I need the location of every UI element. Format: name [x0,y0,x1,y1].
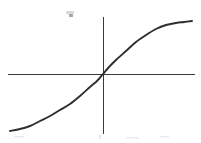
plot-background [0,0,201,143]
pencil-smudge-icon [66,11,74,14]
pencil-smudge-core [69,14,73,17]
scan-speck-center-icon [99,135,101,139]
scan-speck-far-right-icon [160,136,169,137]
scan-speck-right-icon [126,137,139,139]
scan-speck-left-icon [14,136,24,138]
figure-canvas: Hand drawn S shaped sigmoid curve crossi… [0,0,201,143]
plot-svg [0,0,201,143]
